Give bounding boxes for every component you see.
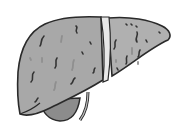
liver-icon (0, 0, 184, 128)
liver-illustration (0, 0, 184, 128)
left-lobe (108, 17, 170, 76)
right-lobe (18, 17, 103, 116)
